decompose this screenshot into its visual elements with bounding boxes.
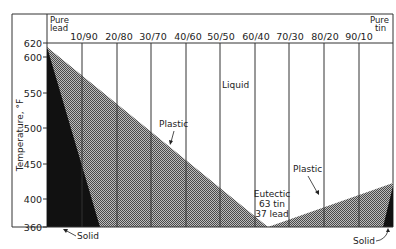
pure-tin-label: tin: [375, 23, 386, 33]
column-label: 20/80: [105, 31, 132, 42]
eutectic-label: Eutectic: [254, 189, 290, 199]
y-tick-label: 620: [24, 38, 42, 49]
plastic-arrow-left: [171, 131, 174, 142]
column-label: 60/40: [242, 31, 269, 42]
y-tick-label: 360: [24, 222, 42, 233]
column-label: 40/60: [174, 31, 201, 42]
plastic-label-right: Plastic: [293, 164, 322, 174]
y-tick-label: 550: [24, 88, 42, 99]
y-tick-label: 400: [24, 194, 42, 205]
arrowhead-icon: [315, 190, 319, 195]
arrowhead-icon: [169, 140, 173, 145]
eutectic-label: 37 lead: [255, 209, 289, 219]
solid-label-right: Solid: [353, 236, 375, 246]
y-tick-label: 600: [24, 52, 42, 63]
column-label: 50/50: [207, 31, 234, 42]
arrowhead-icon: [386, 228, 390, 232]
pure-lead-label: lead: [50, 23, 68, 33]
phase-diagram: 620 600 550 500 450 400 360 Temperature,…: [0, 0, 396, 249]
column-label: 10/90: [70, 31, 97, 42]
y-tick-label: 500: [24, 123, 42, 134]
plastic-label-left: Plastic: [159, 119, 188, 129]
liquid-label: Liquid: [222, 80, 249, 90]
column-label: 80/20: [311, 31, 338, 42]
eutectic-label: 63 tin: [259, 199, 285, 209]
column-label: 30/70: [139, 31, 166, 42]
y-tick-label: 450: [24, 159, 42, 170]
plastic-arrow-right: [308, 176, 317, 192]
column-label: 90/10: [345, 31, 372, 42]
y-ticks: [43, 43, 47, 227]
solid-arrow-right: [376, 231, 388, 241]
solid-label-left: Solid: [77, 231, 99, 241]
y-axis-label: Temperature, °F: [15, 99, 25, 172]
column-label: 70/30: [276, 31, 303, 42]
